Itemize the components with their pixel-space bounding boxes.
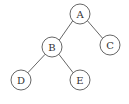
tree-diagram: A B C D E — [0, 0, 129, 104]
edge-b-d — [28, 54, 45, 72]
node-a-label: A — [75, 9, 84, 20]
node-b-label: B — [48, 42, 55, 53]
node-d: D — [11, 70, 31, 90]
node-e: E — [70, 70, 90, 90]
edge-b-e — [59, 54, 73, 72]
node-c: C — [100, 35, 120, 55]
node-d-label: D — [17, 75, 25, 86]
node-b: B — [42, 37, 62, 57]
node-a: A — [70, 4, 90, 24]
edge-a-b — [59, 21, 72, 40]
edge-a-c — [87, 21, 102, 39]
node-e-label: E — [76, 75, 83, 86]
node-c-label: C — [106, 40, 114, 51]
